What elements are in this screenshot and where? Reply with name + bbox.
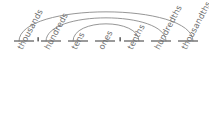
place-value-chart-diagram: thousands hundreds tens ones tenths hund…	[0, 0, 209, 115]
decimal-point-left-icon	[37, 37, 39, 41]
decimal-point-right-icon	[119, 37, 121, 41]
